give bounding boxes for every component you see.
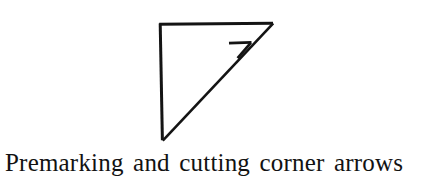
triangle-outline bbox=[159, 23, 273, 140]
triangle-top-edge bbox=[159, 23, 273, 24]
figure-caption: Premarking and cutting corner arrows bbox=[0, 148, 429, 184]
arrow-barb-horizontal-stroke bbox=[229, 42, 252, 43]
corner-arrow-diagram bbox=[0, 0, 429, 150]
triangle-left-edge bbox=[160, 23, 162, 140]
figure-page: Premarking and cutting corner arrows bbox=[0, 0, 429, 184]
triangle-hypotenuse bbox=[163, 23, 273, 140]
